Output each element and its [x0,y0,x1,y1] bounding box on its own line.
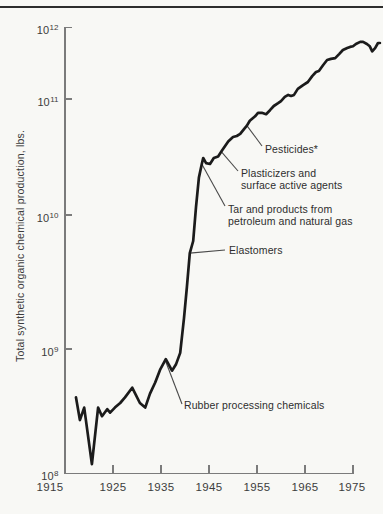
y-axis-title: Total synthetic organic chemical product… [14,130,26,362]
annotation-rubber: Rubber processing chemicals [184,400,324,412]
x-axis-tick-label: 1935 [148,481,175,493]
annotation-leader-line [247,126,262,146]
x-axis-tick-label: 1925 [100,481,127,493]
x-axis-tick-label: 1945 [196,481,223,493]
x-axis-tick-label: 1955 [244,481,271,493]
annotation-pesticides: Pesticides* [265,144,318,156]
y-axis-tick-label: 1010 [0,209,58,224]
annotation-plasticizers: Plasticizers and surface active agents [241,168,342,191]
annotation-leader-line [202,164,225,206]
y-axis-tick-label: 108 [0,467,58,482]
x-axis-tick-label: 1975 [339,481,366,493]
x-axis-tick-label: 1915 [37,481,64,493]
annotation-elastomers: Elastomers [229,245,283,257]
plot-svg [0,0,383,514]
y-axis-tick-label: 1012 [0,21,58,36]
y-axis-tick-label: 109 [0,343,58,358]
y-axis-tick-label: 1011 [0,93,58,108]
annotation-tar: Tar and products from petroleum and natu… [228,204,353,227]
x-axis-tick-label: 1965 [292,481,319,493]
annotation-leader-line [190,250,225,253]
chart-figure: Total synthetic organic chemical product… [0,0,383,514]
annotation-leader-line [222,152,239,171]
